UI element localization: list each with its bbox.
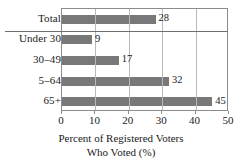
value-label-total: 28: [159, 13, 170, 24]
x-tick-label-20: 20: [115, 115, 141, 126]
category-label-30-49: 30–49: [0, 54, 61, 65]
bar-30-49: [62, 56, 119, 65]
bar-under-30: [62, 35, 92, 44]
x-tick-label-10: 10: [81, 115, 107, 126]
value-label-under-30: 9: [95, 34, 100, 45]
x-axis-title-line-1: Percent of Registered Voters: [0, 131, 242, 145]
category-label-total: Total: [0, 13, 61, 24]
bar-65: [62, 97, 212, 106]
x-tick-label-30: 30: [148, 115, 174, 126]
category-label-under-30: Under 30: [0, 33, 61, 44]
total-separator-rule: [5, 31, 228, 32]
bar-5-64: [62, 77, 169, 86]
gridline-40: [196, 9, 197, 110]
x-tick-label-40: 40: [182, 115, 208, 126]
category-label-5-64: 5–64: [0, 75, 61, 86]
value-label-65-plus: 45: [215, 96, 226, 107]
category-label-65-plus: 65+: [0, 95, 61, 106]
bar-total: [62, 15, 156, 24]
gridline-10: [95, 9, 96, 110]
x-tick-label-0: 0: [48, 115, 74, 126]
plot-inner: [62, 9, 227, 110]
plot-area: [61, 8, 228, 111]
x-axis-title-line-2: Who Voted (%): [0, 145, 242, 159]
x-axis-title: Percent of Registered Voters Who Voted (…: [0, 131, 242, 159]
value-label-30-49: 17: [122, 54, 133, 65]
gridline-30: [162, 9, 163, 110]
x-tick-label-50: 50: [215, 115, 241, 126]
value-label-5-64: 32: [172, 75, 183, 86]
bar-chart: Total Under 30 30–49 5–64 65+ 28 9 17 32…: [0, 0, 242, 166]
